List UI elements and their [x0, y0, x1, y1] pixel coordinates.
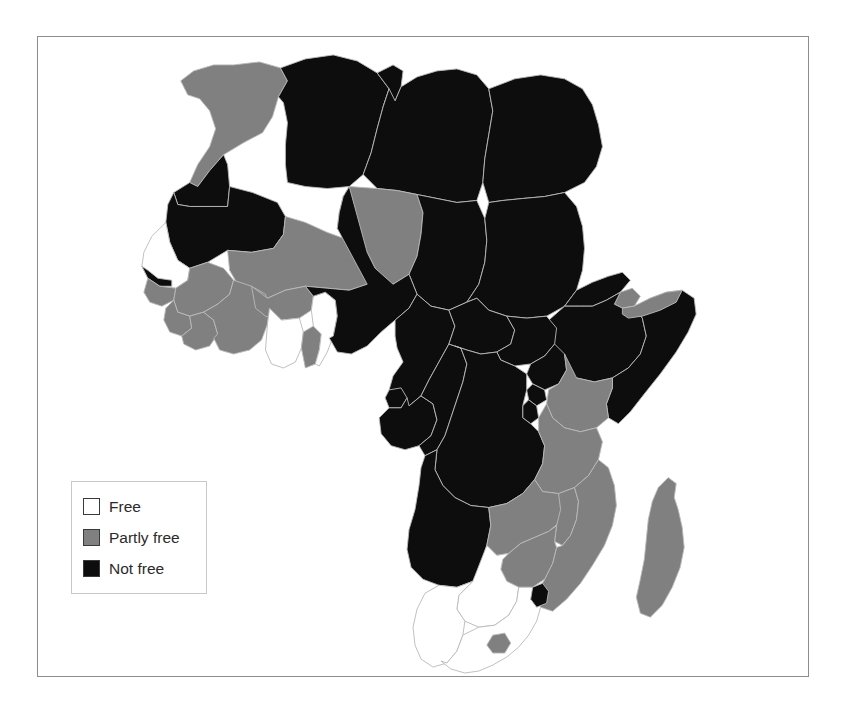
legend-label-free: Free: [109, 499, 141, 515]
legend-item-free: Free: [83, 491, 196, 522]
country-layer: [142, 55, 696, 673]
figure-caption: [40, 686, 460, 700]
country-madagascar: [636, 478, 684, 618]
legend-swatch-not-free: [83, 560, 100, 577]
legend-swatch-free: [83, 498, 100, 515]
legend-item-partly-free: Partly free: [83, 522, 196, 553]
legend-box: Free Partly free Not free: [71, 481, 207, 594]
legend-item-not-free: Not free: [83, 553, 196, 584]
legend-swatch-partly-free: [83, 529, 100, 546]
country-egypt: [483, 75, 603, 203]
figure-container: Free Partly free Not free: [0, 0, 845, 704]
legend-label-not-free: Not free: [109, 561, 164, 577]
legend-label-partly-free: Partly free: [109, 530, 180, 546]
map-plate-frame: Free Partly free Not free: [37, 36, 809, 677]
country-morocco: [181, 62, 288, 187]
